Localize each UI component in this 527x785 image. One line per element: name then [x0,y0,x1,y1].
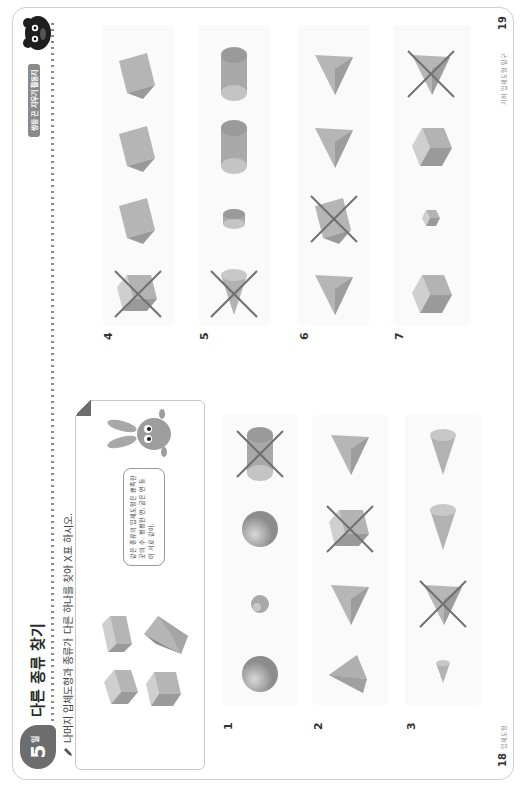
page-title: 다른 종류 찾기 [26,623,47,717]
cone-icon[interactable] [412,498,474,560]
right-page-number: 19 [497,16,508,30]
speech-bubble: 같은 종류의 입체도형은 뾰족한 곳의 수, 평평한 면, 굽은 면 등이 서로… [123,468,165,566]
dotted-divider [51,23,54,723]
cylinder-icon[interactable] [229,423,291,485]
cone-small-icon[interactable] [412,643,474,705]
cube-icon[interactable] [400,116,462,178]
triangular-pyramid-icon[interactable] [303,263,365,325]
instruction: 나머지 입체도형과 종류가 다른 하나를 찾아 X표 하시오. [60,513,75,757]
section-tag: 쌍둥 끈 지우기 활동지 [28,64,40,137]
cylinder-icon[interactable] [203,43,265,105]
example-rect-prism-2 [102,616,132,652]
cone-icon[interactable] [412,423,474,485]
triangular-pyramid-icon[interactable] [319,423,381,485]
rotated-workbook-spread: 5 일 다른 종류 찾기 쌍둥 끈 지우기 활동지 나머지 입체도형과 종류가 … [0,0,527,785]
problem-number: 3 [405,722,418,730]
triangular-prism-icon[interactable] [107,43,169,105]
sphere-icon[interactable] [229,643,291,705]
square-pyramid-icon[interactable] [319,643,381,705]
problem-number: 6 [298,332,311,340]
fold-corner [75,400,91,416]
problem-number: 4 [102,332,115,340]
instruction-text: 나머지 입체도형과 종류가 다른 하나를 찾아 X표 하시오. [60,513,75,743]
day-unit: 일 [29,736,40,743]
example-rect-prism-1 [104,670,138,704]
sphere-icon[interactable] [229,498,291,560]
example-box: 같은 종류의 입체도형은 뾰족한 곳의 수, 평평한 면, 굽은 면 등이 서로… [75,400,205,770]
day-number: 5 [28,745,48,759]
day-badge: 5 일 [20,725,56,769]
problem-number: 1 [222,722,235,730]
rectangular-prism-icon[interactable] [107,263,169,325]
left-page-number: 18 [497,753,508,767]
cube-icon[interactable] [400,263,462,325]
right-page-footer: 기하 입체도형 탐구 [499,53,508,105]
mascot-icon [18,13,54,55]
triangular-pyramid-icon[interactable] [303,116,365,178]
rabbit-mascot-icon [106,404,186,464]
problem-number: 5 [198,332,211,340]
rectangular-prism-icon[interactable] [319,498,381,560]
triangular-pyramid-icon[interactable] [303,43,365,105]
example-shapes [96,604,191,714]
problem-number: 2 [312,722,325,730]
triangular-prism-icon[interactable] [107,116,169,178]
example-triangular-prism [144,616,188,654]
cylinder-small-icon[interactable] [203,188,265,250]
pencil-icon [63,747,73,757]
triangular-pyramid-icon[interactable] [400,43,462,105]
triangular-prism-icon[interactable] [107,188,169,250]
triangular-pyramid-icon[interactable] [319,573,381,635]
left-page-footer: 입체도형 [499,725,508,749]
cylinder-icon[interactable] [203,116,265,178]
example-rect-prism-3 [146,672,181,706]
cube-small-icon[interactable] [400,188,462,250]
problem-number: 7 [393,332,406,340]
cone-icon[interactable] [203,263,265,325]
triangular-prism-icon[interactable] [303,188,365,250]
sphere-small-icon[interactable] [229,573,291,635]
triangular-pyramid-icon[interactable] [412,573,474,635]
